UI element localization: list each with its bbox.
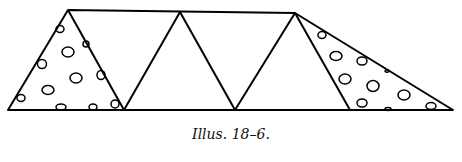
diagonal-5 bbox=[295, 13, 350, 110]
diagonal-4 bbox=[235, 13, 295, 110]
triangle-diagram bbox=[0, 0, 462, 120]
outer-trapezoid bbox=[8, 10, 453, 110]
diagonal-1 bbox=[68, 10, 124, 110]
rock-pattern-right bbox=[318, 32, 436, 111]
diagonal-2 bbox=[124, 12, 180, 110]
diagonal-3 bbox=[180, 12, 235, 110]
figure-caption: Illus. 18–6. bbox=[0, 126, 462, 142]
